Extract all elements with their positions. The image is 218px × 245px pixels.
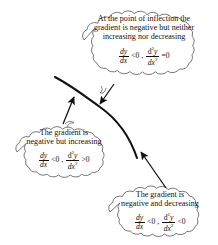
cloud-left-shape [16,127,104,178]
figure-artwork [0,0,218,245]
cloud-top-shape [83,11,195,75]
cloud-top-tail [100,86,106,93]
cloud-left-tail [65,121,74,127]
figure-canvas: At the point of inflection the gradient … [0,0,218,245]
arrow-bottom [141,152,166,188]
arrow-left [63,97,74,124]
cloud-bottom-shape [109,186,199,237]
